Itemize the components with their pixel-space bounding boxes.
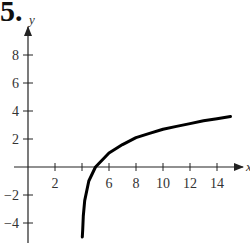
ticks: 268101214−4−22468 xyxy=(4,48,224,231)
y-tick-label: 8 xyxy=(12,48,19,63)
chart: xy 268101214−4−22468 xyxy=(0,0,250,243)
x-tick-label: 12 xyxy=(183,176,197,191)
x-tick-label: 2 xyxy=(52,176,59,191)
y-axis-label: y xyxy=(27,12,35,27)
x-tick-label: 14 xyxy=(210,176,224,191)
y-tick-label: 6 xyxy=(12,76,19,91)
axes: xy xyxy=(14,12,250,243)
x-tick-label: 10 xyxy=(156,176,170,191)
x-tick-label: 6 xyxy=(106,176,113,191)
x-tick-label: 8 xyxy=(133,176,140,191)
y-tick-label: −4 xyxy=(4,216,19,231)
x-axis-label: x xyxy=(245,159,250,174)
y-tick-label: −2 xyxy=(4,188,19,203)
y-tick-label: 2 xyxy=(12,132,19,147)
y-tick-label: 4 xyxy=(12,104,19,119)
